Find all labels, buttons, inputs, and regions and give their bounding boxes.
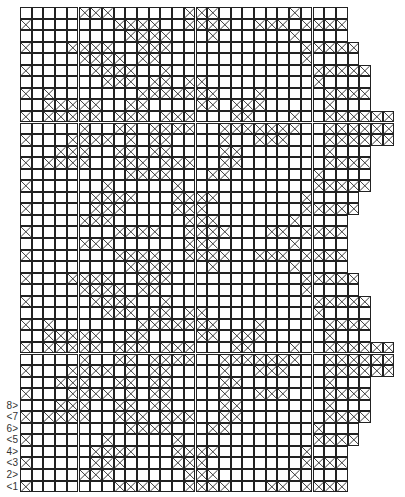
open-cell (301, 111, 313, 123)
open-cell (348, 53, 360, 65)
open-cell (137, 215, 149, 227)
filled-cross-cell (336, 134, 348, 146)
filled-cross-cell (336, 481, 348, 493)
open-cell (359, 76, 371, 88)
cross-icon (349, 43, 359, 53)
filled-cross-cell (149, 250, 161, 262)
open-cell (172, 42, 184, 54)
open-cell (32, 123, 44, 135)
open-cell (172, 226, 184, 238)
open-cell (149, 111, 161, 123)
open-cell (125, 203, 137, 215)
open-cell (254, 157, 266, 169)
open-cell (242, 65, 254, 77)
open-cell (102, 481, 114, 493)
cross-icon (243, 112, 253, 122)
filled-cross-cell (336, 42, 348, 54)
filled-cross-cell (160, 111, 172, 123)
open-cell (102, 19, 114, 31)
open-cell (266, 469, 278, 481)
cross-icon (243, 343, 253, 353)
filled-cross-cell (114, 342, 126, 354)
open-cell (219, 30, 231, 42)
filled-cross-cell (137, 411, 149, 423)
cross-icon (161, 135, 171, 145)
filled-cross-cell (79, 238, 91, 250)
filled-cross-cell (219, 250, 231, 262)
cross-icon (68, 147, 78, 157)
open-cell (231, 76, 243, 88)
cross-icon (197, 8, 207, 18)
open-cell (32, 307, 44, 319)
cross-icon (243, 355, 253, 365)
open-cell (313, 388, 325, 400)
open-cell (90, 76, 102, 88)
cross-icon (68, 274, 78, 284)
open-cell (336, 30, 348, 42)
cross-icon (325, 158, 335, 168)
cross-icon (255, 366, 265, 376)
open-cell (277, 215, 289, 227)
open-cell (336, 469, 348, 481)
open-cell (32, 65, 44, 77)
filled-cross-cell (348, 134, 360, 146)
cross-icon (278, 251, 288, 261)
cross-icon (302, 274, 312, 284)
filled-cross-cell (277, 226, 289, 238)
cross-icon (21, 204, 31, 214)
open-cell (43, 261, 55, 273)
open-cell (301, 238, 313, 250)
row-label: 6> (0, 423, 18, 434)
open-cell (102, 354, 114, 366)
cross-icon (208, 89, 218, 99)
filled-cross-cell (172, 88, 184, 100)
open-cell (20, 423, 32, 435)
open-cell (219, 180, 231, 192)
cross-icon (197, 470, 207, 480)
open-cell (254, 423, 266, 435)
cross-icon (103, 193, 113, 203)
open-cell (184, 423, 196, 435)
filled-cross-cell (324, 319, 336, 331)
filled-cross-cell (55, 146, 67, 158)
open-cell (266, 284, 278, 296)
open-cell (184, 30, 196, 42)
cross-icon (185, 20, 195, 30)
open-cell (102, 226, 114, 238)
open-cell (301, 134, 313, 146)
filled-cross-cell (90, 215, 102, 227)
filled-cross-cell (242, 99, 254, 111)
open-cell (55, 123, 67, 135)
filled-cross-cell (324, 157, 336, 169)
open-cell (43, 53, 55, 65)
filled-cross-cell (125, 30, 137, 42)
cross-icon (325, 482, 335, 492)
open-cell (32, 99, 44, 111)
filled-cross-cell (114, 76, 126, 88)
cross-icon (138, 424, 148, 434)
open-cell (196, 180, 208, 192)
open-cell (254, 469, 266, 481)
open-cell (184, 284, 196, 296)
open-cell (242, 469, 254, 481)
open-cell (231, 88, 243, 100)
filled-cross-cell (137, 99, 149, 111)
open-cell (207, 146, 219, 158)
filled-cross-cell (20, 411, 32, 423)
open-cell (172, 469, 184, 481)
open-cell (55, 250, 67, 262)
open-cell (289, 377, 301, 389)
open-cell (32, 411, 44, 423)
filled-cross-cell (149, 377, 161, 389)
filled-cross-cell (348, 42, 360, 54)
filled-cross-cell (184, 192, 196, 204)
cross-icon (103, 204, 113, 214)
cross-icon (126, 378, 136, 388)
filled-cross-cell (184, 307, 196, 319)
open-cell (160, 250, 172, 262)
open-cell (137, 388, 149, 400)
open-cell (32, 192, 44, 204)
cross-icon (44, 100, 54, 110)
cross-icon (161, 355, 171, 365)
open-cell (277, 7, 289, 19)
